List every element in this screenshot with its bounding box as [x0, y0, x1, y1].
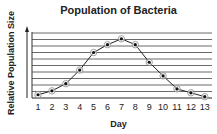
x-tick-label: 10 [158, 102, 168, 112]
x-tick-label: 4 [77, 102, 82, 112]
x-tick-label: 1 [35, 102, 40, 112]
x-tick-label: 13 [200, 102, 210, 112]
data-point [50, 89, 53, 92]
x-tick-label: 3 [63, 102, 68, 112]
data-point [106, 43, 109, 46]
data-point [189, 91, 192, 94]
data-point [148, 61, 151, 64]
x-tick-label: 6 [105, 102, 110, 112]
data-point [162, 74, 165, 77]
data-point [78, 68, 81, 71]
line-chart: 12345678910111213 [0, 0, 217, 134]
x-tick-label: 2 [49, 102, 54, 112]
x-tick-label: 7 [119, 102, 124, 112]
data-point [120, 37, 123, 40]
x-tick-label: 5 [91, 102, 96, 112]
data-point [203, 95, 206, 98]
x-tick-label: 11 [172, 102, 181, 112]
data-point [92, 51, 95, 54]
x-tick-label: 12 [186, 102, 196, 112]
y-axis-arrow [25, 26, 29, 98]
x-tick-label: 8 [133, 102, 138, 112]
x-tick-label: 9 [147, 102, 152, 112]
data-point [134, 43, 137, 46]
data-series [35, 36, 208, 100]
data-point [175, 87, 178, 90]
data-point [64, 82, 67, 85]
x-tick-labels: 12345678910111213 [35, 102, 209, 112]
data-point [36, 93, 39, 96]
